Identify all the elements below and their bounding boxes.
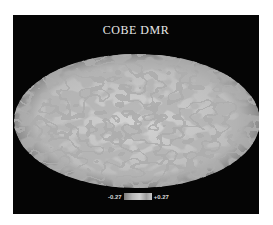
colorbar-gradient <box>124 193 152 200</box>
sky-map-mollweide <box>13 15 259 214</box>
colorbar-min-label: -0.27 <box>108 194 122 200</box>
colorbar: -0.27 +0.27 <box>108 192 169 201</box>
colorbar-max-label: +0.27 <box>154 194 169 200</box>
figure-frame: COBE DMR <box>13 15 259 214</box>
